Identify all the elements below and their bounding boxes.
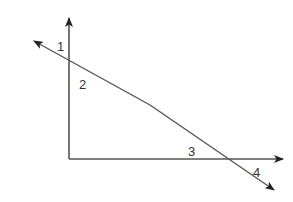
angle-diagram: 1 2 3 4 [0,0,293,202]
transversal-line-upper [34,41,150,105]
angle-label-4: 4 [253,165,260,180]
angle-label-2: 2 [79,77,86,92]
angle-label-3: 3 [188,144,195,159]
angle-label-1: 1 [57,39,64,54]
